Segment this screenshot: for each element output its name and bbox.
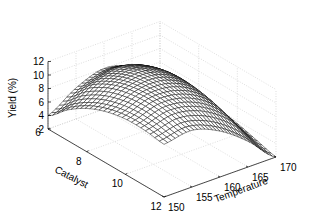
x-tick-label: 12	[150, 201, 162, 212]
x-tick-label: 6	[35, 127, 41, 138]
x-tick	[164, 196, 166, 197]
svg-text:Catalyst: Catalyst	[53, 164, 90, 190]
svg-text:Temperature: Temperature	[213, 175, 270, 205]
y-tick	[190, 186, 192, 187]
y-tick	[218, 176, 220, 177]
y-tick-label: 150	[168, 202, 185, 213]
z-tick-label: 12	[33, 56, 45, 67]
floor-gridline	[125, 134, 237, 174]
surface-chart: 24681012681012150155160165170 Yield (%) …	[0, 0, 310, 218]
z-tick-label: 6	[38, 97, 44, 108]
y-tick-label: 170	[280, 162, 297, 173]
y-tick-label: 155	[196, 192, 213, 203]
x-axis-line	[48, 129, 164, 197]
z-axis-title: Yield (%)	[7, 78, 18, 118]
x-tick	[125, 173, 127, 174]
x-axis-title: Catalyst	[53, 164, 90, 190]
y-axis-title: Temperature	[213, 175, 270, 205]
y-tick	[246, 166, 248, 167]
z-tick-label: 10	[33, 70, 45, 81]
z-tick-label: 4	[38, 110, 44, 121]
x-tick-label: 10	[112, 178, 124, 189]
surface-mesh	[48, 65, 276, 157]
svg-text:Yield (%): Yield (%)	[7, 78, 18, 118]
z-tick-label: 8	[38, 83, 44, 94]
x-tick	[87, 151, 89, 152]
y-tick	[162, 196, 164, 197]
x-tick-label: 8	[76, 156, 82, 167]
